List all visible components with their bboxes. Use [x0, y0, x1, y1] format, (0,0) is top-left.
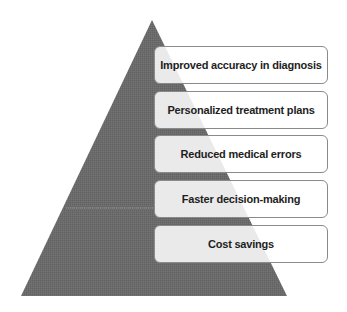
level-label: Improved accuracy in diagnosis — [160, 59, 322, 71]
pyramid-level-5: Cost savings — [154, 225, 328, 263]
level-label: Cost savings — [208, 238, 274, 250]
pyramid-level-3: Reduced medical errors — [154, 135, 328, 173]
level-label: Faster decision-making — [182, 193, 300, 205]
pyramid-level-4: Faster decision-making — [154, 180, 328, 218]
pyramid-level-2: Personalized treatment plans — [154, 91, 328, 129]
pyramid-level-1: Improved accuracy in diagnosis — [154, 46, 328, 84]
level-label: Reduced medical errors — [181, 148, 302, 160]
level-label: Personalized treatment plans — [167, 104, 314, 116]
